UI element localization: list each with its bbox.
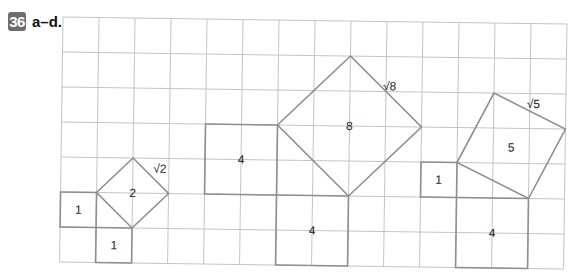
area-label: 4 — [238, 152, 245, 166]
grid-figure-root: 112√248√8415√54 — [60, 17, 567, 269]
area-label: 1 — [435, 173, 442, 187]
grid-line-vertical — [168, 19, 171, 264]
area-label: 4 — [309, 223, 316, 237]
side-length-label: √5 — [527, 97, 541, 111]
side-length-label: √2 — [153, 162, 167, 176]
grid-figure: 112√248√8415√54 — [0, 0, 579, 275]
side-length-label: √8 — [383, 79, 397, 93]
area-label: 4 — [489, 226, 496, 240]
area-label: 5 — [508, 140, 515, 154]
area-label: 1 — [110, 238, 117, 252]
area-label: 8 — [346, 119, 353, 133]
grid-line-vertical — [240, 20, 243, 265]
grid-line-vertical — [564, 24, 567, 269]
grid-line-vertical — [420, 22, 423, 267]
grid-line-vertical — [384, 22, 387, 267]
area-label: 1 — [75, 203, 82, 217]
area-label: 2 — [129, 186, 136, 200]
